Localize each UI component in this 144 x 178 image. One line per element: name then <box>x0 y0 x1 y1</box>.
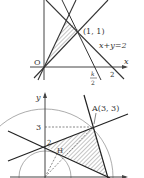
point-label-1-1: (1, 1) <box>83 27 105 36</box>
line-label-x-plus-y: x+y=2 <box>99 41 127 50</box>
shaded-region-1 <box>44 20 79 67</box>
point-label-A: A(3, 3) <box>91 104 119 113</box>
tick-2-label: 2 <box>110 71 114 79</box>
x-axis-label-1: x <box>124 57 129 66</box>
k-numerator: k <box>91 70 95 77</box>
diagram-canvas: x (1, 1) x+y=2 O 2 k 2 y A(3, 3) 3 2 H <box>0 0 144 178</box>
x-axis-arrow-2 <box>122 175 128 178</box>
dashed-oh <box>45 154 57 177</box>
pointer-A <box>94 113 96 124</box>
figure-1 <box>30 0 128 80</box>
origin-label-1: O <box>34 58 41 67</box>
tick-3-label: 3 <box>36 123 41 132</box>
foot-label-H: H <box>57 147 63 155</box>
y-axis-arrow-2 <box>43 92 47 98</box>
tick-2-label-2: 2 <box>47 139 51 147</box>
k-denominator: 2 <box>91 79 95 86</box>
y-axis-label-2: y <box>35 93 41 102</box>
